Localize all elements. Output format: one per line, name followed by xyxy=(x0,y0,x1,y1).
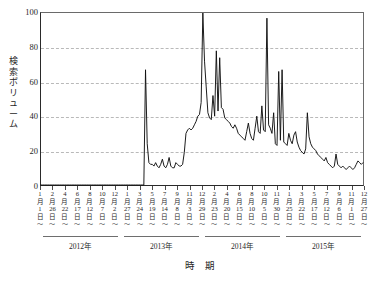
y-tick-label: 80 xyxy=(16,42,38,52)
year-group-rule xyxy=(124,236,199,237)
x-tick-mark xyxy=(227,186,228,190)
y-tick-label: 40 xyxy=(16,111,38,121)
year-group-label: 2014年 xyxy=(202,240,283,251)
search-volume-line-chart: 検索ボリューム 020406080100 1月1日〜2月26日〜4月22日〜6月… xyxy=(0,0,369,284)
x-tick-mark xyxy=(314,186,315,190)
y-tick-label: 20 xyxy=(16,146,38,156)
x-tick-range-glyph: 〜 xyxy=(356,221,369,229)
y-axis-tick-labels: 020406080100 xyxy=(10,0,38,284)
x-tick-mark xyxy=(52,186,53,190)
x-tick-mark xyxy=(352,186,353,190)
x-axis-title: 時 期 xyxy=(40,258,364,272)
plot-area xyxy=(40,12,364,186)
year-group-label: 2015年 xyxy=(283,240,364,251)
x-tick-month-suffix: 月 xyxy=(356,198,369,206)
x-tick-mark xyxy=(165,186,166,190)
x-tick-mark xyxy=(364,186,365,190)
year-group-label: 2013年 xyxy=(121,240,202,251)
x-tick-mark xyxy=(327,186,328,190)
year-group: 2015年 xyxy=(283,236,364,256)
x-tick-mark xyxy=(214,186,215,190)
x-tick-mark xyxy=(264,186,265,190)
x-tick-mark xyxy=(252,186,253,190)
x-tick-day-suffix: 日 xyxy=(356,213,369,221)
x-tick-mark xyxy=(152,186,153,190)
x-tick-label: 12月27日〜 xyxy=(356,190,369,228)
x-tick-mark xyxy=(339,186,340,190)
year-group: 2014年 xyxy=(202,236,283,256)
y-tick-label: 100 xyxy=(16,7,38,17)
year-group-label: 2012年 xyxy=(40,240,121,251)
x-tick-mark xyxy=(302,186,303,190)
series-line xyxy=(41,13,363,185)
series-polyline xyxy=(41,13,363,185)
x-tick-mark xyxy=(102,186,103,190)
x-axis-tick-labels: 1月1日〜2月26日〜4月22日〜6月17日〜8月12日〜10月7日〜12月2日… xyxy=(40,190,364,234)
year-group: 2013年 xyxy=(121,236,202,256)
x-tick-mark xyxy=(77,186,78,190)
x-tick-mark xyxy=(90,186,91,190)
x-tick-mark xyxy=(289,186,290,190)
x-tick-mark xyxy=(65,186,66,190)
x-tick-mark xyxy=(140,186,141,190)
x-axis-year-groups: 2012年2013年2014年2015年 xyxy=(40,236,364,258)
x-tick-mark xyxy=(115,186,116,190)
x-tick-month-number: 12 xyxy=(356,190,369,198)
x-tick-mark xyxy=(127,186,128,190)
x-tick-mark xyxy=(277,186,278,190)
x-tick-mark xyxy=(202,186,203,190)
year-group-rule xyxy=(43,236,118,237)
year-group-rule xyxy=(205,236,280,237)
y-tick-label: 60 xyxy=(16,77,38,87)
x-tick-mark xyxy=(177,186,178,190)
x-tick-day-number: 27 xyxy=(356,205,369,213)
x-tick-mark xyxy=(239,186,240,190)
year-group: 2012年 xyxy=(40,236,121,256)
x-tick-mark xyxy=(40,186,41,190)
x-tick-mark xyxy=(190,186,191,190)
year-group-rule xyxy=(286,236,361,237)
